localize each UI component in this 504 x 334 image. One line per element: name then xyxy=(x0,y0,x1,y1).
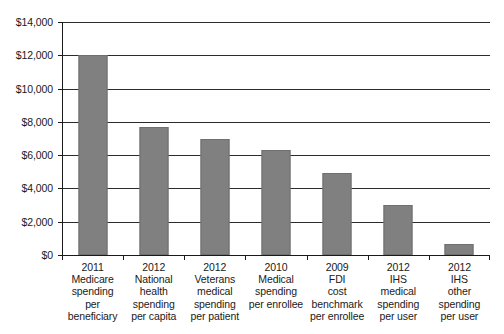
y-axis-labels: $0$2,000$4,000$6,000$8,000$10,000$12,000… xyxy=(0,0,60,334)
bar-series xyxy=(62,22,490,255)
x-axis-category-label: 2012 Veterans medical spending per patie… xyxy=(184,261,245,322)
bar xyxy=(445,244,474,255)
bar-slot xyxy=(429,22,490,255)
y-axis-tick-label: $6,000 xyxy=(21,150,53,161)
y-axis-tick-label: $10,000 xyxy=(16,83,53,94)
x-axis-category-label: 2010 Medical spending per enrollee xyxy=(245,261,306,310)
x-axis-category-label: 2011 Medicare spending per beneficiary xyxy=(62,261,123,322)
bar xyxy=(139,127,168,255)
y-axis-tick-label: $4,000 xyxy=(21,183,53,194)
x-axis-category-label: 2012 National health spending per capita xyxy=(123,261,184,322)
x-axis-tick-mark xyxy=(123,255,124,260)
bar-slot xyxy=(123,22,184,255)
bar xyxy=(200,139,229,256)
x-axis-tick-mark xyxy=(184,255,185,260)
y-axis-tick-label: $2,000 xyxy=(21,216,53,227)
y-axis-tick-label: $8,000 xyxy=(21,117,53,128)
y-axis-tick-label: $12,000 xyxy=(16,50,53,61)
x-axis-tick-mark xyxy=(368,255,369,260)
bar-slot xyxy=(184,22,245,255)
x-axis-tick-mark xyxy=(245,255,246,260)
x-axis-tick-mark xyxy=(489,255,490,260)
bar-slot xyxy=(307,22,368,255)
x-axis-tick-mark xyxy=(307,255,308,260)
x-axis-category-label: 2009 FDI cost benchmark per enrollee xyxy=(307,261,368,322)
bar-slot xyxy=(368,22,429,255)
bar xyxy=(323,173,352,255)
x-axis-category-label: 2012 IHS medical spending per user xyxy=(368,261,429,322)
x-axis-category-label: 2012 IHS other spending per user xyxy=(429,261,490,322)
y-axis-tick-label: $0 xyxy=(42,250,53,261)
bar-slot xyxy=(62,22,123,255)
bar xyxy=(384,205,413,255)
y-axis-tick-label: $14,000 xyxy=(16,17,53,28)
bar-slot xyxy=(245,22,306,255)
bar xyxy=(261,150,290,255)
x-axis-tick-mark xyxy=(62,255,63,260)
bar-chart: $0$2,000$4,000$6,000$8,000$10,000$12,000… xyxy=(0,0,504,334)
plot-area xyxy=(62,22,490,255)
x-axis-tick-mark xyxy=(429,255,430,260)
x-axis-labels: 2011 Medicare spending per beneficiary20… xyxy=(62,261,490,334)
bar xyxy=(78,55,107,255)
